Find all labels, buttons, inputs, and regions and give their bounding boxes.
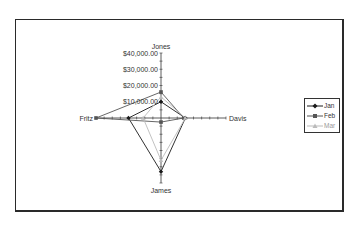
series-feb (96, 92, 184, 122)
axis-tick-label: $30,000.00 (123, 66, 158, 73)
legend-mar-marker-icon (307, 123, 323, 129)
legend-item-feb: Feb (307, 111, 339, 121)
legend-item-mar: Mar (307, 121, 339, 131)
legend-jan-marker-icon (307, 103, 323, 109)
axis-tick-label: $10,000.00 (123, 98, 158, 105)
series-jan (129, 102, 186, 172)
axis-tick-label: $40,000.00 (123, 50, 158, 57)
category-label-davis: Davis (229, 115, 247, 122)
category-label-fritz: Fritz (79, 115, 93, 122)
axis-tick-label: $20,000.00 (123, 82, 158, 89)
legend-label: Jan (324, 101, 334, 111)
chart-legend: Jan Feb Mar (304, 98, 340, 133)
legend-label: Feb (324, 111, 335, 121)
radar-axes (96, 53, 226, 183)
series-mar (143, 97, 185, 160)
category-label-james: James (151, 187, 172, 194)
category-label-jones: Jones (152, 43, 171, 50)
legend-label: Mar (324, 121, 335, 131)
legend-item-jan: Jan (307, 101, 339, 111)
legend-feb-marker-icon (307, 113, 323, 119)
